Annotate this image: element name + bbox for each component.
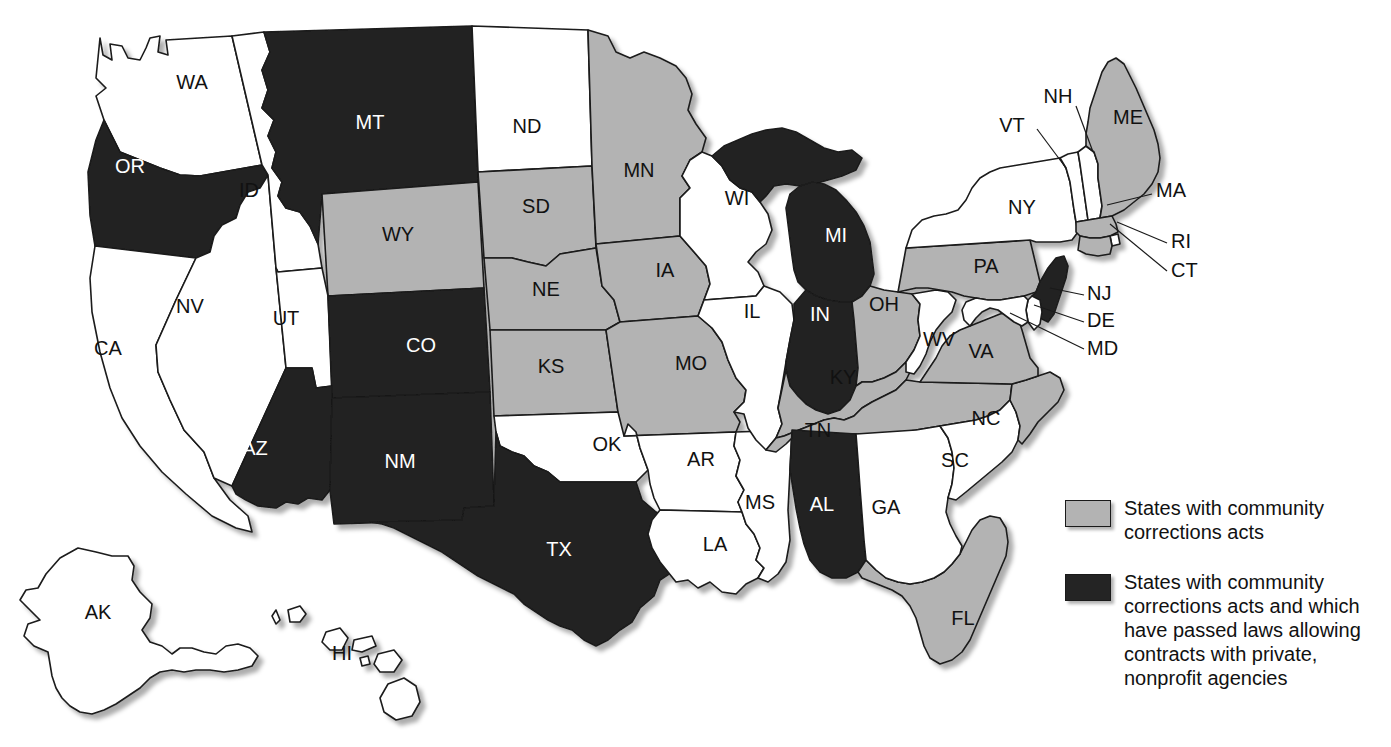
- state-CO[interactable]: [328, 288, 490, 398]
- state-CT[interactable]: [1078, 236, 1112, 256]
- hawaii-island-5[interactable]: [360, 656, 370, 666]
- state-WY[interactable]: [322, 182, 484, 296]
- legend-swatch-gray: [1065, 500, 1111, 527]
- map-legend: States with community corrections acts S…: [1065, 496, 1385, 716]
- legend-label-gray: States with community corrections acts: [1124, 496, 1324, 544]
- legend-item-dark[interactable]: States with community corrections acts a…: [1065, 570, 1385, 690]
- state-GA[interactable]: [856, 426, 962, 584]
- state-NM[interactable]: [330, 392, 494, 524]
- state-KS[interactable]: [490, 330, 618, 416]
- state-ND[interactable]: [472, 26, 592, 172]
- legend-item-gray[interactable]: States with community corrections acts: [1065, 496, 1385, 544]
- legend-label-dark: States with community corrections acts a…: [1124, 570, 1361, 690]
- legend-swatch-dark: [1065, 574, 1111, 601]
